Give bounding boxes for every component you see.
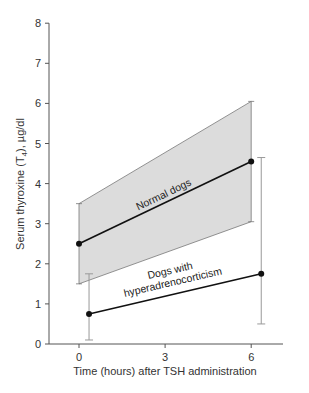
x-tick-label: 3 bbox=[162, 351, 168, 363]
y-tick-label: 1 bbox=[35, 298, 41, 310]
x-axis-label: Time (hours) after TSH administration bbox=[73, 365, 256, 377]
chart: 012345678036 Normal dogsDogs withhyperad… bbox=[0, 0, 309, 393]
normal-mean-point bbox=[76, 241, 82, 247]
x-tick-label: 0 bbox=[76, 351, 82, 363]
hyper-mean-point bbox=[86, 311, 92, 317]
y-tick-label: 0 bbox=[35, 338, 41, 350]
y-tick-label: 8 bbox=[35, 17, 41, 29]
plot-area: Normal dogsDogs withhyperadrenocorticism bbox=[76, 101, 265, 340]
y-tick-label: 7 bbox=[35, 57, 41, 69]
y-tick-label: 4 bbox=[35, 178, 41, 190]
y-axis-label: Serum thyroxine (T4), µg/dl bbox=[14, 118, 29, 250]
y-tick-label: 5 bbox=[35, 138, 41, 150]
normal-mean-point bbox=[248, 159, 254, 165]
x-tick-label: 6 bbox=[248, 351, 254, 363]
hyper-mean-point bbox=[258, 271, 264, 277]
y-tick-label: 6 bbox=[35, 97, 41, 109]
y-tick-label: 2 bbox=[35, 258, 41, 270]
y-tick-label: 3 bbox=[35, 218, 41, 230]
